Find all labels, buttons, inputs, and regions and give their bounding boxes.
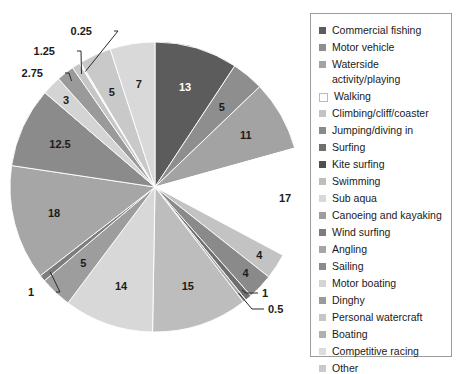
- legend-item[interactable]: Surfing: [319, 140, 445, 155]
- legend-item-label: Sailing: [332, 259, 364, 274]
- legend-item[interactable]: Angling: [319, 242, 445, 257]
- legend-item-label: Canoeing and kayaking: [332, 208, 442, 223]
- legend-swatch-icon: [319, 27, 326, 34]
- legend-swatch-icon: [319, 144, 326, 151]
- legend-item[interactable]: Competitive racing: [319, 344, 445, 359]
- pie-slice-value-label: 0.5: [268, 303, 283, 315]
- legend-item-label: Climbing/cliff/coaster: [332, 106, 429, 121]
- pie-slice-value-label: 5: [109, 86, 115, 98]
- legend-item-label: Motor boating: [332, 276, 396, 291]
- legend-item-label: Motor vehicle: [332, 40, 394, 55]
- legend-item-label: Kite surfing: [332, 157, 385, 172]
- pie-slice-value-label: 7: [136, 78, 142, 90]
- pie-slice-value-label: 0.25: [71, 25, 92, 37]
- legend-swatch-icon: [319, 61, 326, 68]
- pie-slice-value-label: 4: [256, 249, 263, 261]
- legend-item[interactable]: Motor vehicle: [319, 40, 445, 55]
- legend-swatch-icon: [319, 229, 326, 236]
- legend-swatch-icon: [319, 178, 326, 185]
- pie-slice-value-label: 14: [115, 280, 128, 292]
- legend-swatch-icon: [319, 365, 326, 372]
- legend-swatch-icon: [319, 314, 326, 321]
- legend-item[interactable]: Other: [319, 361, 445, 374]
- pie-chart-svg: 13511174410.51514511812.532.751.250.2557: [0, 0, 310, 374]
- legend-item[interactable]: Walking: [319, 89, 445, 104]
- legend-item-label: Swimming: [332, 174, 380, 189]
- pie-slice-value-label: 3: [63, 94, 69, 106]
- legend-swatch-icon: [319, 44, 326, 51]
- legend-item-label: Personal watercraft: [332, 310, 422, 325]
- legend-swatch-icon: [319, 161, 326, 168]
- legend-swatch-icon: [319, 127, 326, 134]
- pie-slice-value-label: 12.5: [49, 138, 70, 150]
- legend-item-label: Waterside activity/playing: [332, 57, 445, 87]
- legend-item-label: Angling: [332, 242, 367, 257]
- legend-swatch-icon: [319, 348, 326, 355]
- legend-item-label: Boating: [332, 327, 368, 342]
- legend-item-label: Walking: [334, 89, 371, 104]
- legend-item-list: Commercial fishingMotor vehicleWaterside…: [319, 23, 445, 374]
- legend-swatch-icon: [319, 263, 326, 270]
- legend-item[interactable]: Boating: [319, 327, 445, 342]
- pie-slices-group: [10, 42, 300, 332]
- legend-item-label: Wind surfing: [332, 225, 390, 240]
- legend-item-label: Sub aqua: [332, 191, 377, 206]
- legend-item-label: Surfing: [332, 140, 365, 155]
- legend-swatch-icon: [319, 297, 326, 304]
- legend-swatch-icon: [319, 331, 326, 338]
- pie-slice-value-label: 18: [48, 207, 60, 219]
- pie-slice-value-label: 1: [262, 287, 268, 299]
- legend-swatch-icon: [319, 280, 326, 287]
- chart-legend: Commercial fishingMotor vehicleWaterside…: [310, 13, 452, 357]
- legend-item[interactable]: Personal watercraft: [319, 310, 445, 325]
- pie-slice-value-label: 2.75: [22, 67, 43, 79]
- legend-item[interactable]: Climbing/cliff/coaster: [319, 106, 445, 121]
- pie-slice-value-label: 5: [80, 257, 86, 269]
- legend-item[interactable]: Jumping/diving in: [319, 123, 445, 138]
- legend-swatch-icon: [319, 212, 326, 219]
- legend-swatch-icon: [319, 110, 326, 117]
- pie-slice-value-label: 5: [219, 101, 225, 113]
- legend-item[interactable]: Swimming: [319, 174, 445, 189]
- legend-item[interactable]: Commercial fishing: [319, 23, 445, 38]
- legend-item-label: Competitive racing: [332, 344, 419, 359]
- pie-slice-value-label: 17: [279, 192, 291, 204]
- legend-swatch-icon: [319, 246, 326, 253]
- pie-slice-value-label: 4: [242, 267, 249, 279]
- legend-item[interactable]: Canoeing and kayaking: [319, 208, 445, 223]
- chart-page: 13511174410.51514511812.532.751.250.2557…: [0, 0, 464, 374]
- legend-item[interactable]: Dinghy: [319, 293, 445, 308]
- legend-item[interactable]: Kite surfing: [319, 157, 445, 172]
- pie-slice-value-label: 11: [240, 129, 252, 141]
- legend-item[interactable]: Wind surfing: [319, 225, 445, 240]
- legend-item[interactable]: Waterside activity/playing: [319, 57, 445, 87]
- legend-swatch-icon: [319, 195, 326, 202]
- legend-item[interactable]: Motor boating: [319, 276, 445, 291]
- legend-item[interactable]: Sub aqua: [319, 191, 445, 206]
- legend-item-label: Jumping/diving in: [332, 123, 413, 138]
- pie-chart-area: 13511174410.51514511812.532.751.250.2557: [0, 0, 310, 374]
- legend-item-label: Other: [332, 361, 358, 374]
- pie-slice-value-label: 13: [179, 81, 191, 93]
- pie-slice-value-label: 15: [182, 280, 194, 292]
- legend-item-label: Dinghy: [332, 293, 365, 308]
- legend-item-label: Commercial fishing: [332, 23, 421, 38]
- legend-item[interactable]: Sailing: [319, 259, 445, 274]
- pie-slice-value-label: 1: [28, 286, 34, 298]
- pie-slice-value-label: 1.25: [34, 45, 55, 57]
- legend-swatch-icon: [319, 93, 328, 102]
